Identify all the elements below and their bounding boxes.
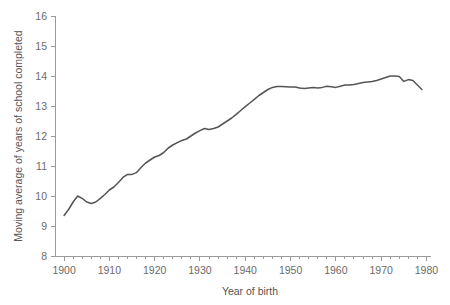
plot-area bbox=[64, 76, 422, 216]
x-tick-label-1910: 1910 bbox=[98, 264, 122, 276]
x-tick-label-1930: 1930 bbox=[188, 264, 212, 276]
chart-container: 8910111213141516 19001910192019301940195… bbox=[0, 0, 450, 305]
x-axis-tick-labels: 190019101920193019401950196019701980 bbox=[52, 264, 438, 276]
x-tick-label-1920: 1920 bbox=[143, 264, 167, 276]
line-chart: 8910111213141516 19001910192019301940195… bbox=[0, 0, 450, 305]
x-axis-group: 190019101920193019401950196019701980 bbox=[52, 256, 438, 276]
y-tick-label-10: 10 bbox=[35, 190, 47, 202]
x-tick-label-1900: 1900 bbox=[52, 264, 76, 276]
y-tick-label-15: 15 bbox=[35, 40, 47, 52]
x-axis-title: Year of birth bbox=[222, 285, 278, 297]
y-axis-group: 8910111213141516 bbox=[35, 10, 55, 262]
y-axis-ticks bbox=[51, 16, 55, 256]
y-tick-label-8: 8 bbox=[41, 250, 47, 262]
y-tick-label-16: 16 bbox=[35, 10, 47, 22]
y-tick-label-13: 13 bbox=[35, 100, 47, 112]
y-tick-label-12: 12 bbox=[35, 130, 47, 142]
x-tick-label-1970: 1970 bbox=[369, 264, 393, 276]
data-series-line bbox=[64, 76, 422, 216]
x-tick-label-1940: 1940 bbox=[234, 264, 258, 276]
y-axis-title: Moving average of years of school comple… bbox=[12, 30, 24, 241]
x-tick-label-1980: 1980 bbox=[415, 264, 439, 276]
x-tick-label-1950: 1950 bbox=[279, 264, 303, 276]
y-tick-label-14: 14 bbox=[35, 70, 47, 82]
y-axis-tick-labels: 8910111213141516 bbox=[35, 10, 47, 262]
y-tick-label-11: 11 bbox=[36, 160, 47, 172]
x-tick-label-1960: 1960 bbox=[324, 264, 348, 276]
y-tick-label-9: 9 bbox=[41, 220, 47, 232]
